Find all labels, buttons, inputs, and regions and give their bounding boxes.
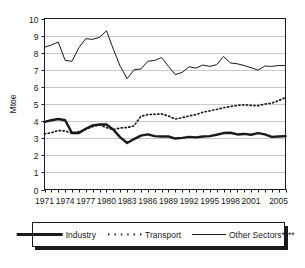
x-axis-tick-label: 1977: [76, 196, 95, 206]
x-axis-tick-label: 1974: [56, 196, 75, 206]
y-axis-tick-label: 1: [34, 168, 39, 178]
y-axis-tick-label: 7: [34, 66, 39, 76]
legend-label-transport: Transport: [145, 230, 182, 240]
y-axis-tick-label: 8: [34, 49, 39, 59]
data-series-layer: [45, 31, 286, 143]
x-axis-tick-label: 2005: [269, 196, 288, 206]
line-chart: 012345678910 197119741977198019831986198…: [0, 0, 305, 268]
y-axis-tick-label: 3: [34, 134, 39, 144]
y-axis-title: Mtoe: [8, 94, 18, 113]
x-axis-tick-label: 1980: [97, 196, 116, 206]
x-axis-tick-label: 2001: [242, 196, 261, 206]
x-axis-tick-label: 1983: [118, 196, 137, 206]
series-line-transport: [45, 98, 286, 134]
chart-figure: 012345678910 197119741977198019831986198…: [0, 0, 305, 268]
series-line-other-sectors: [45, 31, 286, 79]
gridlines: [45, 37, 286, 173]
y-axis-tick-label: 2: [34, 151, 39, 161]
x-axis-tick-label: 1995: [200, 196, 219, 206]
x-axis-tick-labels: 1971197419771980198319861989199219951998…: [35, 196, 288, 206]
y-axis-tick-label: 5: [34, 100, 39, 110]
y-axis-tick-label: 6: [34, 83, 39, 93]
x-axis-tick-label: 1998: [221, 196, 240, 206]
x-axis-tick-label: 1992: [180, 196, 199, 206]
x-axis-tick-label: 1989: [159, 196, 178, 206]
y-axis-tick-label: 0: [34, 186, 39, 196]
legend-label-other-sectors: Other Sectors****: [229, 230, 295, 240]
y-axis-tick-label: 9: [34, 32, 39, 42]
x-axis-tick-label: 1986: [138, 196, 157, 206]
y-axis-tick-labels: 012345678910: [29, 15, 39, 196]
legend-label-industry: Industry: [66, 230, 97, 240]
y-axis-tick-label: 10: [29, 15, 39, 25]
x-axis-tick-label: 1971: [35, 196, 54, 206]
y-axis-tick-label: 4: [34, 117, 39, 127]
